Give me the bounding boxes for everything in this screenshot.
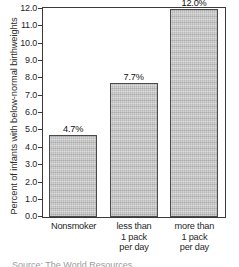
y-tick-label: 2.0 (25, 177, 37, 187)
y-tick-mark (38, 25, 43, 26)
y-tick-label: 0.0 (25, 211, 37, 221)
y-tick-label: 3.0 (25, 159, 37, 169)
bar: 7.7% (110, 83, 158, 217)
y-axis-title: Percent of infants with below-normal bir… (7, 8, 21, 224)
y-tick-mark (38, 182, 43, 183)
x-axis-label-line: less than (104, 221, 164, 232)
y-tick-label: 5.0 (25, 124, 37, 134)
y-tick-label: 6.0 (25, 107, 37, 117)
y-tick-mark (38, 112, 43, 113)
y-tick-label: 11.0 (21, 20, 37, 30)
plot-area: 12.011.010.09.08.07.06.05.04.03.02.01.00… (42, 7, 226, 218)
y-tick-mark (38, 129, 43, 130)
bar: 4.7% (49, 135, 97, 217)
x-axis-category-label: Nonsmoker (43, 221, 103, 232)
y-tick-label: 8.0 (25, 72, 37, 82)
x-axis-label-line: 1 pack (164, 232, 224, 243)
y-tick-label: 4.0 (25, 142, 37, 152)
x-axis-label-line: Nonsmoker (43, 221, 103, 232)
y-tick-mark (38, 8, 43, 9)
y-tick-label: 10.0 (20, 38, 37, 48)
bar-value-label: 4.7% (63, 124, 83, 134)
x-axis-category-label: less than1 packper day (104, 221, 164, 253)
y-tick-mark (38, 77, 43, 78)
y-tick-label: 1.0 (25, 194, 37, 204)
y-tick-mark (38, 216, 43, 217)
bar-chart-figure: Percent of infants with below-normal bir… (0, 0, 239, 267)
x-axis-category-label: more than1 packper day (164, 221, 224, 253)
x-axis-label-line: per day (104, 242, 164, 253)
bar: 12.0% (170, 9, 218, 217)
y-tick-mark (38, 95, 43, 96)
y-tick-mark (38, 43, 43, 44)
y-tick-mark (38, 199, 43, 200)
bar-value-label: 7.7% (124, 72, 144, 82)
x-axis-label-line: 1 pack (104, 232, 164, 243)
y-tick-label: 7.0 (25, 90, 37, 100)
bar-value-label: 12.0% (181, 0, 206, 8)
y-tick-label: 9.0 (25, 55, 37, 65)
y-tick-mark (38, 164, 43, 165)
y-tick-mark (38, 60, 43, 61)
plot-inner: 12.011.010.09.08.07.06.05.04.03.02.01.00… (43, 8, 225, 217)
y-tick-mark (38, 147, 43, 148)
figure-caption-partial: Source: The World Resources (12, 261, 227, 267)
x-axis-label-line: more than (164, 221, 224, 232)
y-tick-label: 12.0 (20, 3, 37, 13)
x-axis-label-line: per day (164, 242, 224, 253)
